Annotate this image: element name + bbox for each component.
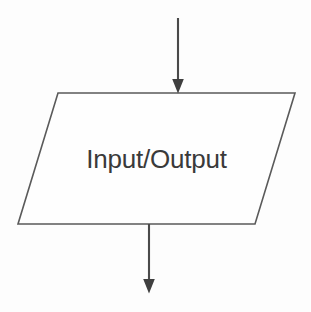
outgoing-arrow-head-icon xyxy=(143,279,155,294)
incoming-arrow-head-icon xyxy=(172,79,184,94)
io-node-label: Input/Output xyxy=(2,146,311,172)
outgoing-arrow[interactable] xyxy=(143,224,155,294)
diagram-canvas: Input/Output xyxy=(0,0,310,312)
incoming-arrow[interactable] xyxy=(172,18,184,94)
